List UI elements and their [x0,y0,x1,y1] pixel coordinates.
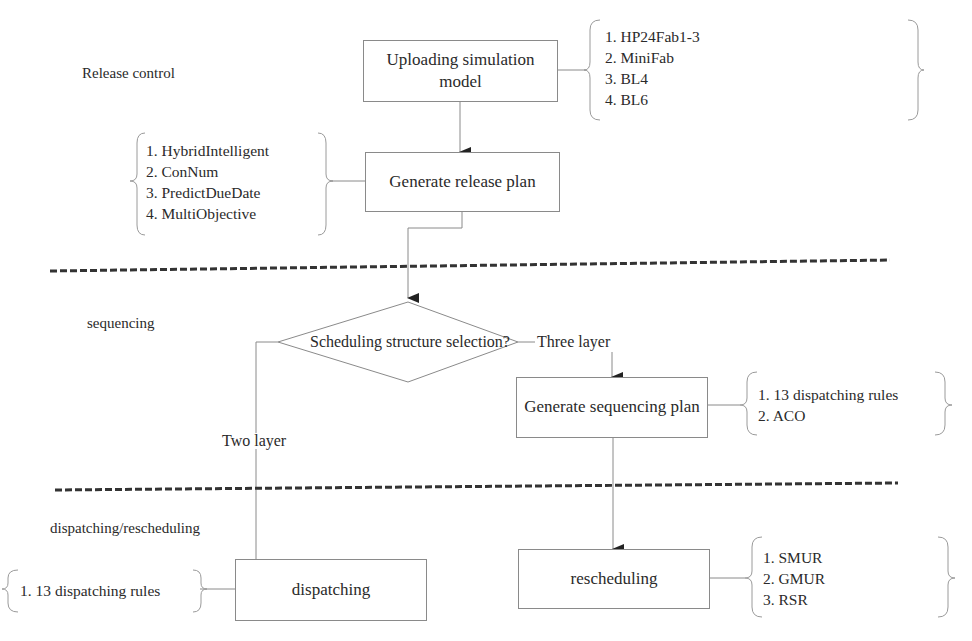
brace-left-release [130,133,145,235]
node-rescheduling-label: rescheduling [571,568,658,590]
brace-left-rescheduling [745,537,762,617]
list-release-methods: 1. HybridIntelligent 2. ConNum 3. Predic… [146,140,269,224]
list-item: 2. MiniFab [605,47,700,68]
node-generate-sequencing-plan[interactable]: Generate sequencing plan [516,377,708,438]
list-item: 2. ACO [758,405,898,426]
divider-release-sequencing [50,260,890,271]
brace-right-models [908,20,924,120]
node-dispatching-label: dispatching [292,579,370,601]
list-rescheduling-methods: 1. SMUR 2. GMUR 3. RSR [763,547,825,610]
section-label-sequencing: sequencing [87,316,154,331]
list-item: 3. BL4 [605,68,700,89]
node-release-label: Generate release plan [389,171,535,193]
node-generate-release-plan[interactable]: Generate release plan [365,152,560,212]
list-item: 1. HP24Fab1-3 [605,26,700,47]
brace-right-release [318,133,333,235]
brace-left-models [584,20,600,120]
list-sequencing-methods: 1. 13 dispatching rules 2. ACO [758,384,898,426]
list-item: 1. HybridIntelligent [146,140,269,161]
list-simulation-models: 1. HP24Fab1-3 2. MiniFab 3. BL4 4. BL6 [605,26,700,110]
list-item: 4. MultiObjective [146,203,269,224]
brace-left-dispatching [2,570,18,612]
list-item: 1. 13 dispatching rules [20,580,160,601]
list-item: 2. ConNum [146,161,269,182]
decision-scheduling-structure[interactable]: Scheduling structure selection? [310,334,510,350]
node-rescheduling[interactable]: rescheduling [518,549,710,609]
list-item: 1. 13 dispatching rules [758,384,898,405]
brace-left-sequencing [740,372,757,435]
list-item: 3. PredictDueDate [146,182,269,203]
list-item: 4. BL6 [605,89,700,110]
list-item: 3. RSR [763,589,825,610]
list-item: 2. GMUR [763,568,825,589]
node-upload-label: Uploading simulation model [381,49,541,93]
brace-right-dispatching [193,570,207,612]
divider-sequencing-dispatching [55,483,898,490]
node-dispatching[interactable]: dispatching [235,559,427,621]
node-sequencing-label: Generate sequencing plan [524,396,700,418]
node-upload-simulation-model[interactable]: Uploading simulation model [363,40,558,102]
edge-label-three-layer: Three layer [537,334,610,350]
edge-label-two-layer: Two layer [221,433,287,449]
section-label-release-control: Release control [82,66,175,81]
list-dispatching-methods: 1. 13 dispatching rules [20,580,160,601]
list-item: 1. SMUR [763,547,825,568]
brace-right-rescheduling [938,537,955,617]
brace-right-sequencing [935,372,952,435]
section-label-dispatching-rescheduling: dispatching/rescheduling [50,521,200,536]
